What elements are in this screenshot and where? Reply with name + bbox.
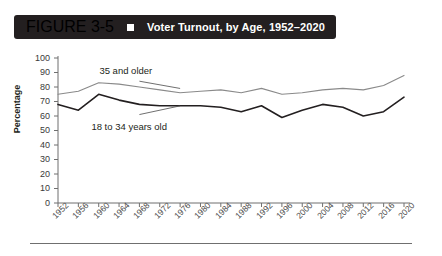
- data-series-line: [58, 75, 404, 94]
- data-series-line: [58, 94, 404, 117]
- annotation-leader-line: [139, 106, 180, 115]
- series-label: 35 and older: [99, 65, 152, 76]
- chart-canvas: Percentage 1009080706050403020100 195219…: [0, 0, 442, 256]
- line-plot: [0, 0, 442, 256]
- bottom-divider: [30, 243, 412, 244]
- series-label: 18 to 34 years old: [91, 121, 167, 132]
